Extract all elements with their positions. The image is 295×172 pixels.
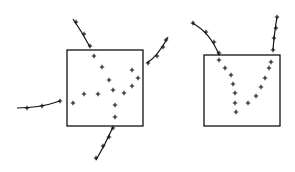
feature-point-marker	[254, 94, 258, 98]
feature-point-marker	[130, 68, 134, 72]
trajectory-point-marker	[25, 106, 29, 110]
trajectory-left-incoming	[192, 23, 219, 55]
feature-point-marker	[259, 85, 263, 89]
feature-point-marker	[231, 82, 235, 86]
feature-point-marker	[233, 101, 237, 105]
trajectory-point-marker	[155, 54, 159, 58]
feature-point-marker	[130, 84, 134, 88]
tracking-diagram	[0, 0, 295, 172]
feature-point-marker	[267, 66, 271, 70]
feature-point-marker	[113, 103, 117, 107]
feature-point-marker	[100, 65, 104, 69]
feature-point-marker	[217, 58, 221, 62]
feature-point-marker	[107, 78, 111, 82]
trajectory-point-marker	[204, 30, 208, 34]
feature-point-marker	[113, 115, 117, 119]
feature-point-marker	[223, 66, 227, 70]
feature-point-marker	[122, 91, 126, 95]
feature-point-marker	[229, 73, 233, 77]
feature-point-marker	[246, 101, 250, 105]
left-tracking-window	[17, 19, 168, 160]
feature-point-marker	[234, 110, 238, 114]
feature-point-marker	[96, 92, 100, 96]
window-box	[204, 55, 280, 126]
feature-point-marker	[233, 91, 237, 95]
feature-point-marker	[269, 60, 273, 64]
feature-point-marker	[263, 76, 267, 80]
trajectory-left-incoming	[17, 101, 60, 108]
trajectory-point-marker	[40, 104, 44, 108]
trajectory-point-marker	[82, 32, 86, 36]
trajectory-right-incoming	[273, 17, 277, 50]
right-tracking-window	[191, 15, 280, 126]
trajectory-point-marker	[274, 26, 278, 30]
trajectory-point-marker	[271, 48, 275, 52]
trajectory-right-outgoing	[147, 37, 168, 63]
feature-point-marker	[92, 54, 96, 58]
trajectory-bottom-outgoing	[96, 127, 113, 160]
trajectory-point-marker	[212, 40, 216, 44]
feature-point-marker	[111, 88, 115, 92]
feature-point-marker	[71, 101, 75, 105]
trajectory-point-marker	[272, 36, 276, 40]
feature-point-marker	[82, 92, 86, 96]
trajectory-point-marker	[58, 99, 62, 103]
trajectory-point-marker	[275, 15, 279, 19]
feature-point-marker	[136, 76, 140, 80]
